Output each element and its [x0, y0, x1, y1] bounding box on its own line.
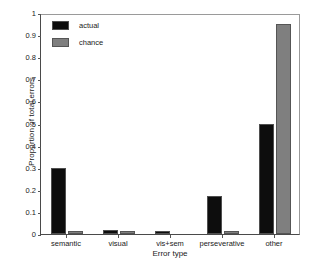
y-tick-label: 0.8: [14, 54, 36, 62]
bar-actual-visual: [103, 230, 118, 234]
legend-item-chance: chance: [52, 35, 142, 49]
y-tick-mark: [38, 80, 41, 81]
y-tick-mark: [38, 125, 41, 126]
bar-chance-perseverative: [224, 231, 239, 234]
bar-actual-vis+sem: [155, 231, 170, 234]
y-tick-mark: [38, 14, 41, 15]
x-tick-mark: [274, 235, 275, 238]
x-tick-label: other: [234, 239, 314, 248]
y-tick-label: 0.9: [14, 32, 36, 40]
y-tick-mark: [38, 235, 41, 236]
y-tick-label: 0.2: [14, 187, 36, 195]
bar-actual-perseverative: [207, 196, 222, 234]
y-tick-mark: [38, 58, 41, 59]
x-axis-title: Error type: [130, 249, 210, 258]
bar-chance-visual: [120, 231, 135, 234]
y-tick-label: 0: [14, 231, 36, 239]
bar-chance-other: [276, 24, 291, 234]
x-tick-mark: [118, 235, 119, 238]
x-tick-mark: [222, 235, 223, 238]
y-tick-label: 0.1: [14, 209, 36, 217]
y-tick-mark: [38, 213, 41, 214]
y-tick-label: 1: [14, 10, 36, 18]
y-tick-label: 0.4: [14, 143, 36, 151]
x-tick-mark: [66, 235, 67, 238]
y-tick-label: 0.6: [14, 98, 36, 106]
bar-chart-figure: Proportion of total errors 00.10.20.30.4…: [0, 0, 317, 268]
bar-chance-semantic: [68, 231, 83, 234]
bar-actual-other: [259, 124, 274, 235]
legend-swatch-chance: [52, 38, 69, 47]
y-tick-mark: [38, 36, 41, 37]
y-tick-label: 0.7: [14, 76, 36, 84]
y-tick-mark: [38, 191, 41, 192]
legend-label-actual: actual: [79, 21, 99, 30]
legend-swatch-actual: [52, 21, 69, 30]
chart-legend: actual chance: [52, 18, 142, 52]
x-tick-mark: [170, 235, 171, 238]
y-tick-label: 0.3: [14, 165, 36, 173]
y-tick-mark: [38, 147, 41, 148]
y-axis-tick-labels: 00.10.20.30.40.50.60.70.80.91: [10, 0, 36, 268]
bar-actual-semantic: [51, 168, 66, 234]
y-tick-mark: [38, 169, 41, 170]
legend-item-actual: actual: [52, 18, 142, 32]
y-tick-label: 0.5: [14, 121, 36, 129]
legend-label-chance: chance: [79, 38, 103, 47]
y-tick-mark: [38, 102, 41, 103]
